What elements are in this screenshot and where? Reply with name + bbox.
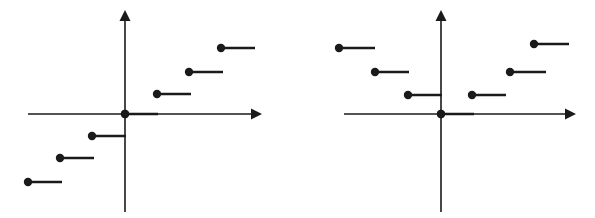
y-axis-arrowhead-icon	[436, 10, 447, 21]
left-plot-canvas	[0, 0, 298, 218]
step-closed-endpoint-dot-0	[24, 178, 32, 186]
figure-root	[0, 0, 595, 218]
origin-dot	[437, 110, 445, 118]
step-function-plot-left	[0, 0, 298, 218]
step-closed-endpoint-dot-1	[56, 154, 64, 162]
step-closed-endpoint-dot-4	[153, 90, 161, 98]
step-closed-endpoint-dot-0	[335, 44, 343, 52]
step-closed-endpoint-dot-5	[185, 68, 193, 76]
right-plot-canvas	[298, 0, 595, 218]
step-function-plot-right	[298, 0, 595, 218]
step-closed-endpoint-dot-1	[371, 68, 379, 76]
plot-group-0	[24, 10, 262, 212]
step-closed-endpoint-dot-6	[530, 40, 538, 48]
step-closed-endpoint-dot-4	[468, 91, 476, 99]
x-axis-arrowhead-icon	[565, 109, 576, 120]
plot-group-1	[335, 10, 576, 212]
step-closed-endpoint-dot-2	[88, 132, 96, 140]
step-closed-endpoint-dot-2	[404, 91, 412, 99]
step-closed-endpoint-dot-5	[506, 68, 514, 76]
x-axis-arrowhead-icon	[251, 109, 262, 120]
step-closed-endpoint-dot-6	[217, 44, 225, 52]
origin-dot	[121, 110, 129, 118]
y-axis-arrowhead-icon	[120, 10, 131, 21]
